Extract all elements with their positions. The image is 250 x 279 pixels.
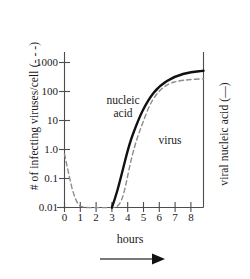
x-tick-label-5: 5 <box>136 211 152 223</box>
x-tick-label-7: 7 <box>167 211 183 223</box>
annotation-nucleic-acid-line2: acid <box>100 107 146 120</box>
y-tick-label-10: 10 <box>47 115 58 126</box>
annotation-virus: virus <box>152 134 188 147</box>
x-tick-label-3: 3 <box>104 211 120 223</box>
y-tick-label-1: 1.0 <box>44 144 58 155</box>
x-tick-label-4: 4 <box>120 211 136 223</box>
x-tick-label-1: 1 <box>72 211 88 223</box>
direction-arrow-icon <box>100 254 165 265</box>
y-axis-label-left: # of infecting viruses/cell (- - -) <box>28 16 40 216</box>
y-axis-label-right: viral nucleic acid (—) <box>218 49 230 219</box>
x-tick-label-8: 8 <box>183 211 199 223</box>
annotation-nucleic-acid: nucleic acid <box>100 94 146 119</box>
x-tick-label-2: 2 <box>88 211 104 223</box>
y-tick-label-0.01: 0.01 <box>39 202 58 213</box>
x-axis-label: hours <box>90 232 170 247</box>
virus-growth-curve-figure: 1000 100 10 1.0 0.1 0.01 0 1 2 3 4 5 6 7… <box>0 0 250 279</box>
annotation-nucleic-acid-line1: nucleic <box>100 94 146 107</box>
y-tick-label-100: 100 <box>42 86 59 97</box>
x-tick-label-6: 6 <box>151 211 167 223</box>
y-tick-label-0.1: 0.1 <box>44 173 58 184</box>
x-tick-label-0: 0 <box>57 211 73 223</box>
